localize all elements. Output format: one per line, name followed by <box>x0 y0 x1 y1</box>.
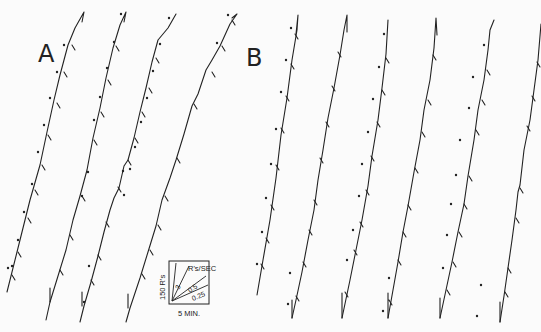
cumulative-records-figure: R's/SEC 3 0.5 0.25 150 R's 5 MIN. A B <box>0 0 541 332</box>
record-b5 <box>440 20 494 318</box>
record-b1 <box>257 15 298 295</box>
record-b2 <box>292 15 347 318</box>
panel-label-b: B <box>246 44 262 72</box>
x-scale-label: 5 MIN. <box>178 309 200 318</box>
record-a2 <box>46 12 126 320</box>
rate-key: R's/SEC 3 0.5 0.25 150 R's 5 MIN. <box>158 261 217 318</box>
record-b6 <box>500 24 541 322</box>
rate-header: R's/SEC <box>188 264 217 273</box>
y-scale-label: 150 R's <box>158 275 167 300</box>
record-b4 <box>388 18 437 318</box>
records-canvas: R's/SEC 3 0.5 0.25 150 R's 5 MIN. <box>0 0 541 332</box>
rate-3-label: 3 <box>174 284 182 291</box>
panel-label-a: A <box>38 40 54 68</box>
panel-b-records <box>257 15 541 322</box>
record-b3 <box>342 20 388 318</box>
